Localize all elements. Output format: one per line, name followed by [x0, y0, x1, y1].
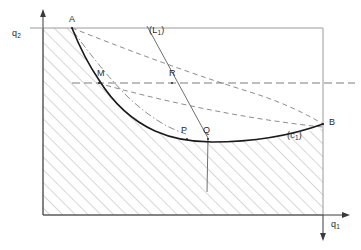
marker-M: [98, 82, 100, 84]
marker-A: [71, 27, 73, 29]
point-label-Q: Q: [203, 126, 210, 135]
point-label-A: A: [69, 15, 75, 24]
axis-label-q1: q1: [331, 220, 340, 229]
marker-R: [171, 82, 173, 84]
point-label-R: R: [169, 69, 176, 78]
curve-label-c1: (c1): [287, 131, 302, 140]
point-label-P: P: [181, 126, 187, 135]
curve-label-c1-close: ): [299, 130, 302, 140]
axis-label-q1-sub: 1: [336, 223, 340, 230]
curve-label-L1-close: ): [161, 25, 164, 35]
marker-P: [186, 138, 188, 140]
point-label-B: B: [329, 118, 335, 127]
axis-label-q2: q2: [12, 29, 21, 38]
curve-label-c1-open: (c: [287, 130, 295, 140]
axis-label-q2-sub: 2: [17, 32, 21, 39]
point-label-M: M: [97, 69, 105, 78]
curve-label-L1: (L1): [149, 26, 164, 35]
x-axis: [43, 212, 350, 241]
marker-B: [322, 123, 324, 125]
figure-container: A M R P Q B (L1) (c1) q2 q1: [0, 0, 361, 250]
marker-Q: [207, 138, 209, 140]
curve-label-c1-sub: 1: [295, 134, 299, 141]
curve-label-L1-sub: 1: [157, 29, 161, 36]
